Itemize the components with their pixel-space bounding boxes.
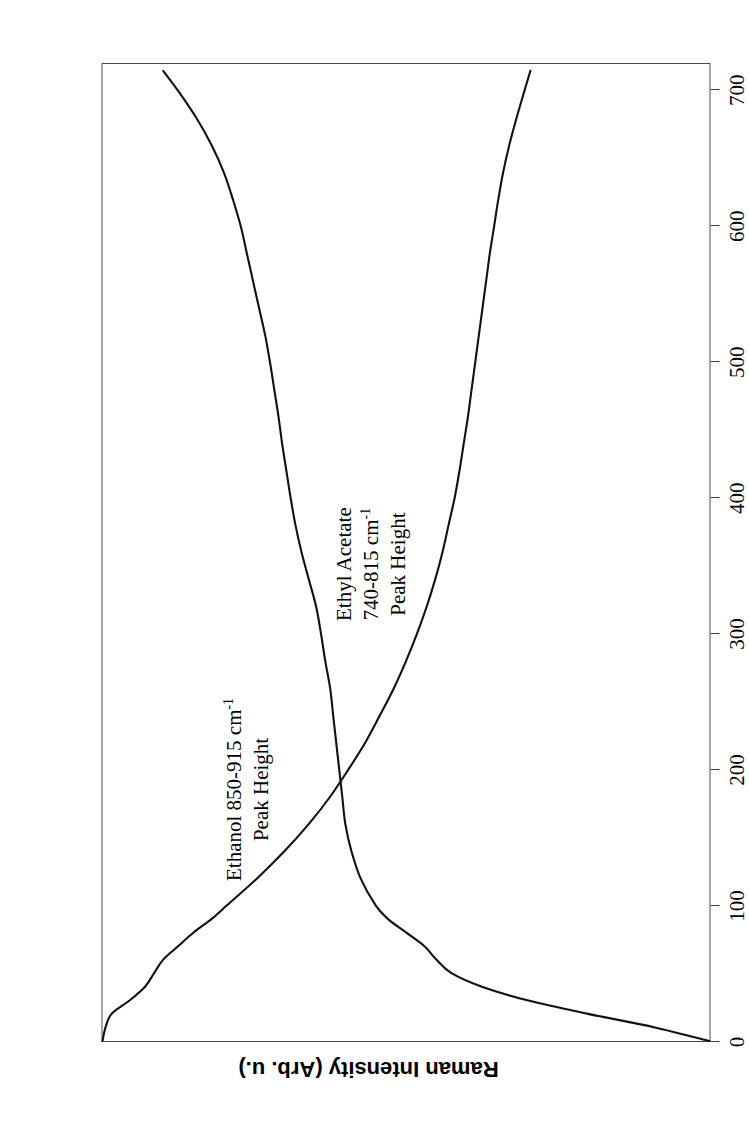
- x-axis-tick-mark: [710, 905, 719, 906]
- annotation-ethyl-acetate-line1: Ethyl Acetate: [330, 507, 357, 621]
- x-axis-tick-label: 600: [724, 210, 749, 242]
- plot-area: Ethanol 850-915 cm-1 Peak Height Ethyl A…: [101, 63, 710, 1042]
- x-axis-tick-mark: [710, 769, 719, 770]
- curve-ethyl-acetate: [102, 71, 530, 1041]
- x-axis-tick-label: 100: [724, 890, 749, 922]
- rotated-figure-container: Ethanol 850-915 cm-1 Peak Height Ethyl A…: [0, 0, 749, 1134]
- x-axis-tick-mark: [710, 633, 719, 634]
- annotation-ethyl-acetate-line3: Peak Height: [384, 507, 411, 621]
- x-axis-tick-mark: [710, 1041, 719, 1042]
- x-axis-tick-mark: [710, 89, 719, 90]
- x-axis-tick-mark: [710, 225, 719, 226]
- annotation-ethanol-line1: Ethanol 850-915 cm-1: [220, 698, 247, 881]
- x-axis-tick-label: 500: [724, 346, 749, 378]
- annotation-ethyl-acetate: Ethyl Acetate 740-815 cm-1 Peak Height: [330, 507, 411, 621]
- x-axis-tick-label: 400: [724, 482, 749, 514]
- x-axis-tick-label: 0: [724, 1037, 749, 1048]
- annotation-ethanol-line2: Peak Height: [247, 698, 274, 881]
- curve-ethanol: [163, 71, 709, 1041]
- annotation-ethyl-acetate-line2: 740-815 cm-1: [357, 507, 384, 621]
- x-axis-tick-label: 700: [724, 74, 749, 106]
- x-axis-tick-label: 300: [724, 618, 749, 650]
- x-axis-tick-mark: [710, 361, 719, 362]
- annotation-ethyl-acetate-superscript: -1: [357, 508, 372, 520]
- x-axis-tick-mark: [710, 497, 719, 498]
- x-axis-tick-label: 200: [724, 754, 749, 786]
- annotation-ethanol-superscript: -1: [220, 698, 235, 710]
- raman-intensity-time-chart: Ethanol 850-915 cm-1 Peak Height Ethyl A…: [0, 0, 749, 1134]
- y-axis-title: Raman Intensity (Arb. u.): [88, 1056, 648, 1082]
- annotation-ethanol: Ethanol 850-915 cm-1 Peak Height: [220, 698, 274, 881]
